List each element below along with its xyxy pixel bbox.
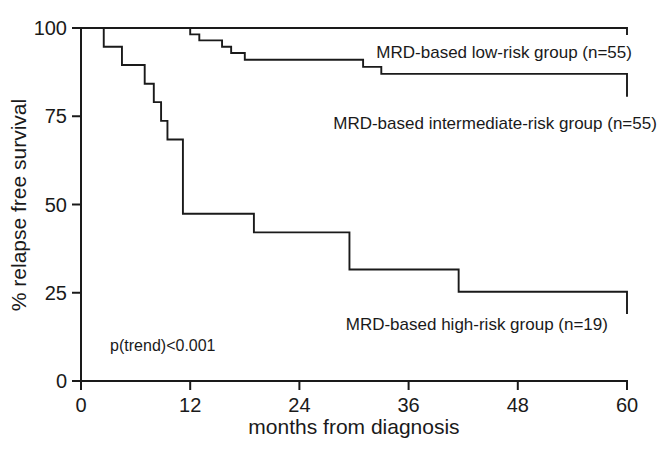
x-tick-label: 48 [507, 394, 529, 416]
y-axis-title: % relapse free survival [7, 99, 30, 311]
x-tick-label: 24 [288, 394, 310, 416]
y-tick-label: 100 [34, 17, 67, 39]
annotation-p-value: p(trend)<0.001 [110, 337, 216, 354]
x-axis-title: months from diagnosis [248, 415, 459, 438]
y-axis-ticks: 0255075100 [34, 17, 81, 392]
survival-curve-2 [81, 28, 627, 97]
kaplan-meier-figure: 0255075100 01224364860 MRD-based low-ris… [0, 0, 659, 455]
x-tick-label: 36 [397, 394, 419, 416]
chart-annotations: p(trend)<0.001 [110, 337, 216, 354]
series-label-1: MRD-based low-risk group (n=55) [376, 43, 632, 62]
y-tick-label: 75 [45, 105, 67, 127]
series-label-2: MRD-based intermediate-risk group (n=55) [333, 114, 657, 133]
x-tick-label: 12 [179, 394, 201, 416]
survival-curves [81, 28, 627, 314]
x-tick-label: 0 [75, 394, 86, 416]
survival-chart: 0255075100 01224364860 MRD-based low-ris… [0, 0, 659, 455]
y-tick-label: 50 [45, 194, 67, 216]
y-tick-label: 0 [56, 370, 67, 392]
series-labels: MRD-based low-risk group (n=55)MRD-based… [333, 43, 657, 334]
survival-curve-1 [81, 28, 627, 35]
y-tick-label: 25 [45, 282, 67, 304]
x-axis-ticks: 01224364860 [75, 381, 638, 416]
x-tick-label: 60 [616, 394, 638, 416]
series-label-3: MRD-based high-risk group (n=19) [346, 315, 608, 334]
survival-curve-3 [81, 28, 627, 314]
